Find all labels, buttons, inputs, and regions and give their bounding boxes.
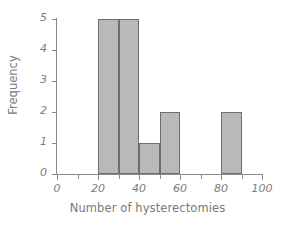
x-tick-40 <box>139 175 140 180</box>
bar-50-60 <box>160 112 181 174</box>
bar-40-50 <box>139 143 160 174</box>
bar-20-30 <box>98 19 119 174</box>
x-tick-minor-90 <box>242 175 243 179</box>
y-tick-label-3: 3 <box>33 73 47 86</box>
x-axis-title: Number of hysterectomies <box>0 201 295 215</box>
x-tick-label-80: 80 <box>206 182 236 195</box>
y-tick-label-4: 4 <box>33 42 47 55</box>
x-tick-minor-10 <box>78 175 79 179</box>
x-tick-minor-70 <box>201 175 202 179</box>
x-tick-minor-50 <box>160 175 161 179</box>
y-tick-label-2: 2 <box>33 104 47 117</box>
x-tick-label-20: 20 <box>83 182 113 195</box>
x-tick-label-0: 0 <box>42 182 72 195</box>
x-tick-label-100: 100 <box>247 182 277 195</box>
x-tick-minor-30 <box>119 175 120 179</box>
x-tick-20 <box>98 175 99 180</box>
x-tick-0 <box>57 175 58 180</box>
x-tick-80 <box>221 175 222 180</box>
plot-area <box>57 19 262 174</box>
y-tick-label-5: 5 <box>33 11 47 24</box>
y-tick-label-1: 1 <box>33 135 47 148</box>
histogram-figure: Frequency 012345 020406080100 Number of … <box>0 0 295 225</box>
x-tick-label-40: 40 <box>124 182 154 195</box>
bar-80-90 <box>221 112 242 174</box>
x-tick-60 <box>180 175 181 180</box>
y-axis-title: Frequency <box>6 35 20 135</box>
x-tick-100 <box>262 175 263 180</box>
bar-30-40 <box>119 19 140 174</box>
x-tick-label-60: 60 <box>165 182 195 195</box>
y-tick-label-0: 0 <box>33 166 47 179</box>
